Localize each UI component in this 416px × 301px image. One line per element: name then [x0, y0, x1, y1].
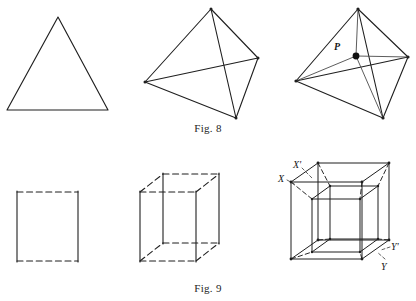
figure-square — [17, 191, 78, 262]
label-point-p: P — [334, 41, 340, 52]
label-vertex-x-prime: X' — [293, 159, 301, 170]
figure-tesseract — [287, 162, 390, 261]
figure-page: P X X' Y Y' Fig. 8 Fig. 9 — [0, 0, 416, 301]
caption-figure-9: Fig. 9 — [0, 282, 416, 294]
figure-tetrahedron-point-p — [294, 7, 409, 119]
label-vertex-y: Y — [381, 261, 387, 272]
figure-triangle — [7, 17, 108, 110]
point-p-dot — [353, 53, 360, 60]
figures-canvas — [0, 0, 416, 301]
interior-point-connectors — [296, 9, 408, 118]
label-vertex-x: X — [278, 173, 284, 184]
label-vertex-y-prime: Y' — [391, 241, 399, 252]
caption-figure-8: Fig. 8 — [0, 122, 416, 134]
figure-tetrahedron — [144, 8, 260, 120]
figure-cube — [140, 173, 219, 262]
